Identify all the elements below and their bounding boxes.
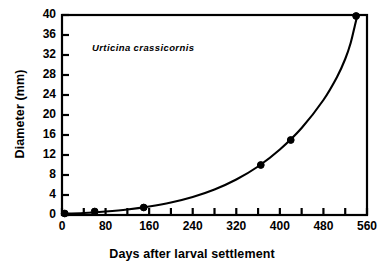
y-tick-label: 12 bbox=[26, 147, 56, 161]
y-tick-label: 28 bbox=[26, 67, 56, 81]
y-tick-label: 36 bbox=[26, 27, 56, 41]
y-tick-label: 20 bbox=[26, 107, 56, 121]
y-tick-label: 24 bbox=[26, 87, 56, 101]
x-tick-label: 560 bbox=[347, 219, 384, 233]
y-tick-label: 16 bbox=[26, 127, 56, 141]
x-tick-label: 0 bbox=[42, 219, 82, 233]
y-tick-label: 4 bbox=[26, 187, 56, 201]
y-axis-title: Diameter (mm) bbox=[13, 34, 27, 194]
x-tick-label: 160 bbox=[129, 219, 169, 233]
y-tick-label: 8 bbox=[26, 167, 56, 181]
x-axis-title: Days after larval settlement bbox=[0, 247, 384, 261]
x-tick-label: 240 bbox=[173, 219, 213, 233]
x-tick-label: 80 bbox=[86, 219, 126, 233]
x-tick-label: 320 bbox=[216, 219, 256, 233]
y-tick-label: 0 bbox=[26, 207, 56, 221]
x-tick-label: 400 bbox=[260, 219, 300, 233]
x-tick-label: 480 bbox=[303, 219, 343, 233]
y-tick-label: 32 bbox=[26, 47, 56, 61]
y-tick-label: 40 bbox=[26, 7, 56, 21]
species-annotation: Urticina crassicornis bbox=[92, 42, 194, 53]
chart-figure: Urticina crassicornis Days after larval … bbox=[0, 0, 384, 272]
